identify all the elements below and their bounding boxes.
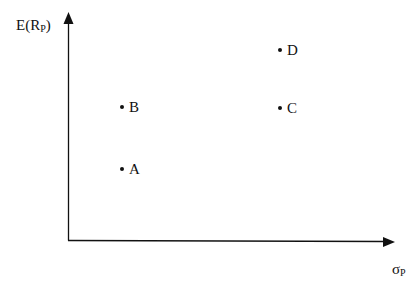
x-axis-label: σP [392, 262, 406, 278]
point-label: C [287, 101, 297, 116]
x-axis-line [68, 241, 384, 242]
point-label: A [129, 162, 140, 177]
point-marker [120, 167, 124, 171]
point-label: B [129, 100, 139, 115]
y-axis-label: E(RP) [16, 18, 51, 34]
point-marker [278, 106, 282, 110]
x-axis-arrow-icon [383, 237, 395, 247]
point-marker [278, 48, 282, 52]
y-axis-arrow-icon [64, 12, 74, 24]
point-label: D [287, 43, 298, 58]
chart-axes [0, 0, 417, 290]
point-marker [120, 105, 124, 109]
